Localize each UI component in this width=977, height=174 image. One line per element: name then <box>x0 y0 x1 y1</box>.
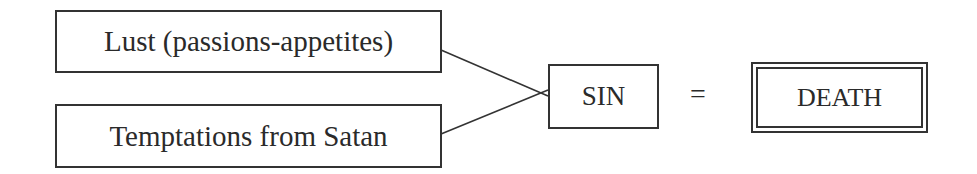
equals-sign: = <box>690 78 706 110</box>
temptations-box: Temptations from Satan <box>55 104 442 168</box>
death-box: DEATH <box>751 62 928 133</box>
death-label: DEATH <box>797 83 882 113</box>
lust-box: Lust (passions-appetites) <box>55 10 442 73</box>
sin-box: SIN <box>548 64 659 129</box>
death-inner-box: DEATH <box>756 67 923 128</box>
sin-label: SIN <box>582 81 626 112</box>
lust-label: Lust (passions-appetites) <box>104 25 393 58</box>
temptations-label: Temptations from Satan <box>109 120 387 153</box>
